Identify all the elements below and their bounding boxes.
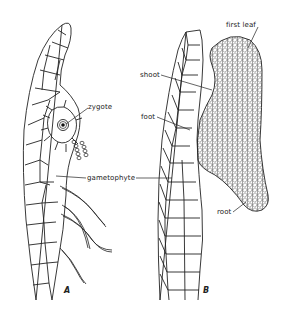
label-shoot: shoot <box>140 71 160 79</box>
rhizoids <box>60 186 112 284</box>
archegonium-neck <box>72 140 88 159</box>
label-first-leaf: first leaf <box>226 21 256 29</box>
label-gametophyte: gametophyte <box>87 174 135 182</box>
panel-b-gametophyte <box>158 30 203 300</box>
label-root: root <box>217 208 231 216</box>
panel-a-gametophyte <box>23 23 112 300</box>
shoot-leader <box>161 75 212 90</box>
panel-b-sporophyte <box>197 36 268 211</box>
panel-label-b: B <box>203 286 209 295</box>
label-foot: foot <box>141 113 155 121</box>
diagram-canvas <box>0 0 284 312</box>
panel-label-a: A <box>64 286 70 295</box>
root-leader <box>233 202 246 212</box>
foot-leader <box>157 117 190 130</box>
label-zygote: zygote <box>88 103 112 111</box>
gametophyte-leader-a <box>56 176 86 178</box>
